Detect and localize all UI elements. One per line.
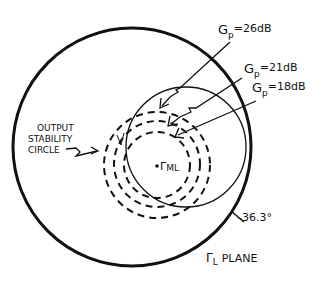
arrow-26db xyxy=(162,42,230,106)
plane-label: ΓLPLANE xyxy=(206,251,257,267)
gamma-ml-label: ΓML xyxy=(160,160,179,173)
stability-label-line-1: OUTPUT xyxy=(37,123,74,133)
stability-arrowhead xyxy=(91,147,98,154)
arrow-21db xyxy=(171,78,242,124)
gamma-ml-point xyxy=(155,164,159,168)
gain-circle-21db xyxy=(114,121,200,207)
stability-label-arrow xyxy=(66,148,97,156)
gain-label-21db: Gp=21dB xyxy=(244,61,298,79)
angle-label: -36.3° xyxy=(238,211,272,224)
smith-chart-diagram: ΓML Gp=26dB Gp=21dB Gp=18dB OUTPUT STABI… xyxy=(0,0,313,281)
stability-label-line-2: STABILITY xyxy=(28,134,73,144)
gain-label-18db: Gp=18dB xyxy=(252,80,306,98)
gain-label-26db: Gp=26dB xyxy=(218,22,272,40)
stability-label-line-3: CIRCLE xyxy=(28,145,60,155)
output-stability-circle xyxy=(126,87,246,207)
tick-mark xyxy=(117,133,124,145)
arrow-18db xyxy=(178,101,256,135)
arrowhead-21db xyxy=(168,116,178,126)
